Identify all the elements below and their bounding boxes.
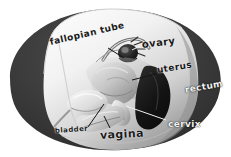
anatomical-illustration: fallopian tube ovary uterus rectum cervi… (0, 0, 231, 157)
label-vagina: vagina (100, 128, 144, 141)
label-cervix: cervix (168, 120, 201, 129)
